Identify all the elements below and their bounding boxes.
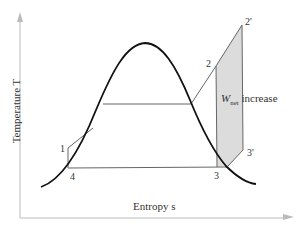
wnet-symbol: W [221,92,230,104]
wnet-text: increase [241,92,277,104]
point-3-label: 3 [214,171,219,181]
point-4-label: 4 [70,172,75,182]
ts-diagram [0,0,299,233]
point-3p-label: 3' [247,148,254,158]
pump-line-4-1 [68,128,93,168]
point-2-label: 2 [206,59,211,69]
x-axis-label: Entropy s [133,200,175,212]
condensation-line [68,167,228,168]
wnet-subscript: net [230,99,239,107]
y-axis-label: Temperature T [10,61,22,161]
point-1-label: 1 [60,144,65,154]
x-axis-arrow-icon [283,214,294,220]
y-axis-arrow-icon [17,12,23,22]
point-2p-label: 2' [245,17,252,27]
wnet-increase-label: Wnet increase [221,92,278,107]
